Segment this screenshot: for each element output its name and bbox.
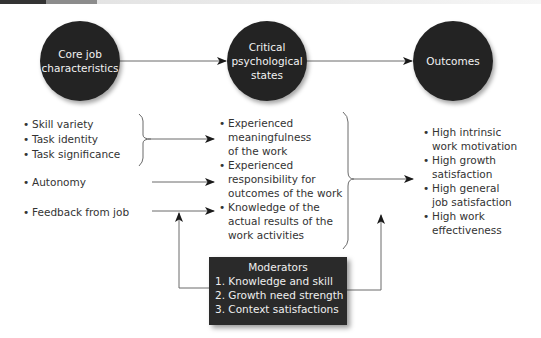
moderator-item-growth-need: 2. Growth need strength [215, 288, 347, 302]
list-item-growth-satisfaction: High growth satisfaction [423, 153, 517, 181]
brace-states [343, 112, 354, 249]
list-item-task-significance: Task significance [23, 147, 120, 161]
node-core-label: Core job characteristics [42, 47, 119, 75]
core-characteristic-autonomy: Autonomy [23, 175, 86, 189]
list-item-autonomy: Autonomy [23, 175, 86, 189]
list-item-task-identity: Task identity [23, 132, 120, 146]
list-item-skill-variety: Skill variety [23, 117, 120, 131]
moderator-item-context-satisfactions: 3. Context satisfactions [215, 302, 347, 316]
list-item-intrinsic-motivation: High intrinsic work motivation [423, 125, 517, 153]
list-item-meaningfulness: Experienced meaningfulness of the work [219, 116, 342, 158]
node-critical-psychological-states: Critical psychological states [227, 21, 307, 101]
moderators-title: Moderators [215, 260, 347, 274]
node-outcomes: Outcomes [413, 21, 493, 101]
moderators-box: Moderators 1. Knowledge and skill 2. Gro… [209, 257, 347, 325]
node-core-job-characteristics: Core job characteristics [40, 21, 120, 101]
list-item-knowledge-of-results: Knowledge of the actual results of the w… [219, 200, 342, 242]
core-characteristic-feedback: Feedback from job [23, 205, 129, 219]
list-item-responsibility: Experienced responsibility for outcomes … [219, 158, 342, 200]
moderator-left-connector [179, 213, 209, 288]
moderator-right-connector [347, 215, 381, 290]
psychological-states-list: Experienced meaningfulness of the work E… [219, 116, 342, 242]
node-outcomes-label: Outcomes [426, 54, 479, 68]
brace-core-group [139, 114, 151, 166]
node-states-label: Critical psychological states [231, 40, 302, 82]
list-item-job-satisfaction: High general job satisfaction [423, 181, 517, 209]
list-item-feedback: Feedback from job [23, 205, 129, 219]
list-item-work-effectiveness: High work effectiveness [423, 209, 517, 237]
outcomes-list: High intrinsic work motivation High grow… [423, 125, 517, 237]
moderator-item-knowledge-skill: 1. Knowledge and skill [215, 274, 347, 288]
core-characteristics-group-list: Skill variety Task identity Task signifi… [23, 117, 120, 162]
